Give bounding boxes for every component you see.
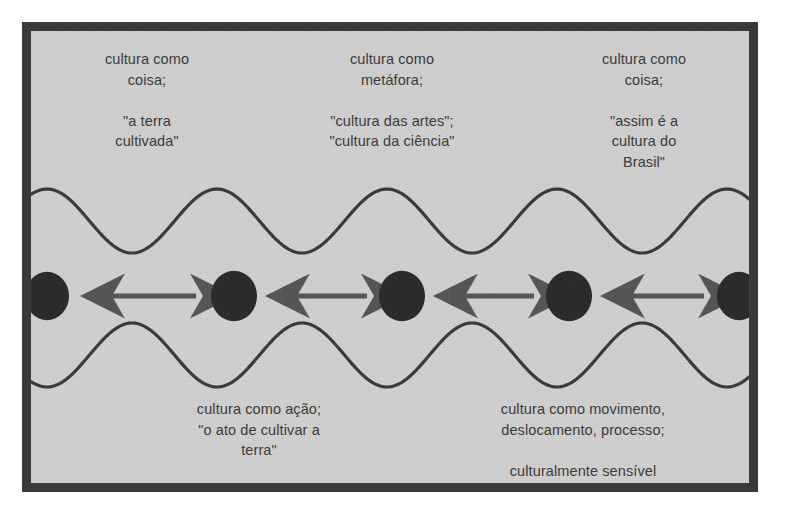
node-circle	[717, 272, 749, 320]
label-cultura-como-coisa-brasil: cultura como coisa; "assim é a cultura d…	[549, 49, 739, 172]
figure-frame: cultura como coisa; "a terra cultivada" …	[22, 22, 758, 492]
label-cultura-como-movimento: cultura como movimento, deslocamento, pr…	[443, 399, 723, 481]
upper-wave	[31, 189, 749, 253]
label-cultura-como-metafora: cultura como metáfora; "cultura das arte…	[267, 49, 517, 152]
node-circle	[211, 271, 257, 322]
node-circle	[379, 271, 425, 322]
lower-wave	[31, 323, 749, 387]
node-circle	[31, 272, 69, 320]
label-cultura-como-acao: cultura como ação; "o ato de cultivar a …	[141, 399, 377, 461]
label-cultura-como-coisa-terra: cultura como coisa; "a terra cultivada"	[49, 49, 245, 152]
node-circle	[546, 271, 592, 322]
